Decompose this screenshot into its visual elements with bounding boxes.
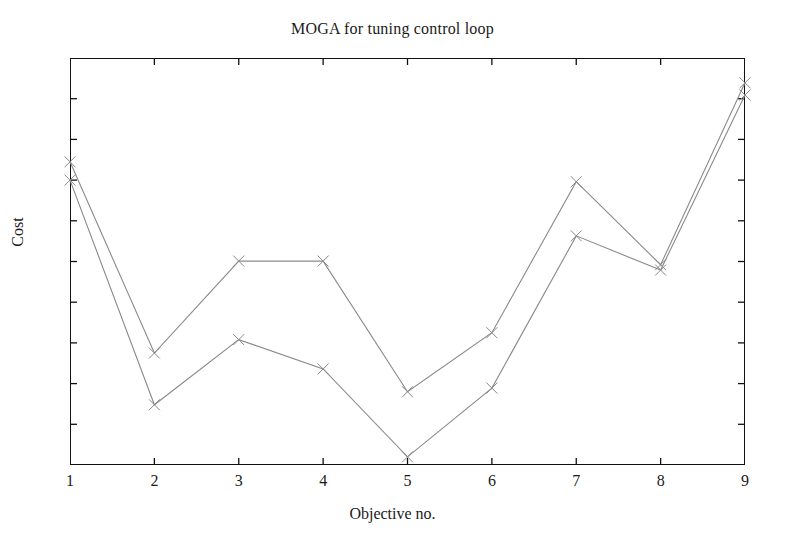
x-tick-label-2: 2 [150, 472, 158, 490]
x-tick-label-5: 5 [404, 472, 412, 490]
plot-area-frame [70, 58, 745, 465]
x-axis-label: Objective no. [0, 505, 785, 523]
x-tick-label-6: 6 [488, 472, 496, 490]
x-tick-label-8: 8 [657, 472, 665, 490]
chart-figure: MOGA for tuning control loop 123456789 O… [0, 0, 785, 547]
y-axis-label: Cost [9, 217, 27, 246]
x-tick-label-3: 3 [235, 472, 243, 490]
chart-title: MOGA for tuning control loop [0, 20, 785, 38]
x-tick-label-4: 4 [319, 472, 327, 490]
x-tick-label-1: 1 [66, 472, 74, 490]
x-tick-label-7: 7 [572, 472, 580, 490]
x-tick-label-9: 9 [741, 472, 749, 490]
